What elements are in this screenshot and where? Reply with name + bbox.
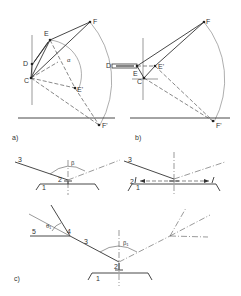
point-f-prime-label-b: F': [216, 122, 222, 129]
point-d-label: D: [23, 60, 28, 67]
angle-beta1-label: β₁: [123, 240, 128, 246]
panel-c-top-left: 3 β 2 1: [15, 156, 120, 195]
panel-c-top-right: 3 2 1: [124, 152, 225, 195]
label-1-top-left: 1: [42, 184, 46, 191]
angle-alpha-label: α: [67, 57, 71, 63]
point-c-label: C: [24, 77, 29, 84]
point-f-label: F: [93, 18, 97, 25]
point-e-label-b: E: [133, 70, 138, 77]
angle-beta-label: β: [71, 160, 75, 166]
label-2: 2: [114, 263, 118, 270]
angle-theta1-label: θ₁: [46, 223, 51, 229]
label-1-top-right: 1: [136, 184, 140, 191]
panel-a: E F D C E' F' α a): [12, 18, 115, 142]
panel-a-label: a): [12, 134, 18, 142]
label-2-top-left: 2: [58, 176, 62, 183]
label-4: 4: [67, 228, 71, 235]
point-f-label-b: F: [206, 18, 210, 25]
point-e-label: E: [44, 30, 49, 37]
point-e-prime-label-b: E': [158, 63, 164, 70]
point-f-prime-label: F': [102, 122, 108, 129]
label-2-top-right: 2: [130, 178, 134, 185]
label-3: 3: [84, 238, 88, 245]
technical-diagram: E F D C E' F' α a) F D E E' C F' b): [0, 0, 241, 296]
point-e-prime-label: E': [77, 86, 83, 93]
panel-b: F D E E' C F' b): [106, 18, 230, 142]
label-1: 1: [96, 275, 100, 282]
panel-b-label: b): [135, 134, 141, 142]
panel-c: 5 4 3 2 1 β₁ θ₁ c): [14, 205, 210, 286]
point-d-label-b: D: [106, 62, 111, 69]
label-3-top-right: 3: [128, 156, 132, 163]
label-5: 5: [32, 228, 36, 235]
label-3-top-left: 3: [18, 156, 22, 163]
panel-c-label: c): [14, 275, 20, 283]
point-c-label-b: C: [137, 78, 142, 85]
